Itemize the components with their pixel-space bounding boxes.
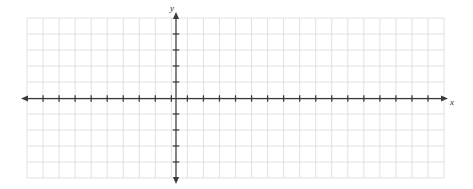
y-axis-label: y [169, 3, 174, 13]
coordinate-plane-svg: x y [0, 0, 473, 189]
coordinate-grid-figure: x y [0, 0, 473, 189]
x-axis-label: x [449, 97, 454, 107]
figure-background [0, 0, 473, 189]
